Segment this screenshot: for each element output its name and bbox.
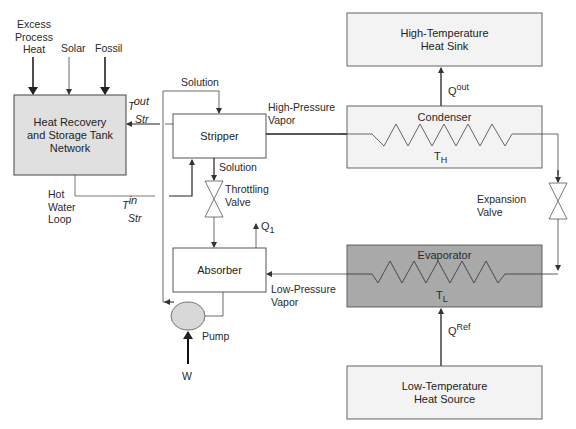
heat-recovery-label: Heat Recovery and Storage Tank Network bbox=[14, 95, 126, 175]
t-in-sub: Str bbox=[128, 212, 141, 225]
low-pressure-vapor-label: Low-Pressure Vapor bbox=[271, 283, 336, 308]
t-in-str-label: Tin bbox=[122, 199, 137, 212]
solution-mid-label: Solution bbox=[219, 161, 257, 174]
throttling-valve-label: Throttling Valve bbox=[225, 183, 269, 208]
high-pressure-vapor-label: High-Pressure Vapor bbox=[268, 101, 335, 126]
th-label: TH bbox=[434, 150, 447, 164]
t-out-str-label: Tout bbox=[128, 100, 149, 113]
condenser-label: Condenser bbox=[347, 111, 542, 124]
excess-process-heat-label: Excess Process Heat bbox=[14, 18, 54, 56]
solar-label: Solar bbox=[61, 42, 86, 55]
pump-label: Pump bbox=[202, 330, 229, 343]
heat-source-label: Low-Temperature Heat Source bbox=[347, 366, 542, 419]
w-label: W bbox=[182, 370, 192, 383]
expansion-valve-label: Expansion Valve bbox=[477, 193, 526, 218]
absorber-label: Absorber bbox=[173, 248, 266, 292]
solution-top-label: Solution bbox=[181, 76, 219, 89]
throttling-valve bbox=[205, 181, 223, 217]
q-ref-label: QRef bbox=[448, 325, 471, 339]
hot-water-loop-line bbox=[75, 175, 155, 196]
fossil-label: Fossil bbox=[95, 42, 122, 55]
pump bbox=[171, 302, 205, 330]
hot-water-loop-label: Hot Water Loop bbox=[48, 188, 76, 226]
q-out-label: Qout bbox=[448, 85, 469, 99]
q1-label: Q1 bbox=[261, 220, 275, 234]
tl-label: TL bbox=[436, 289, 448, 303]
expansion-valve bbox=[549, 183, 567, 219]
t-out-sub: Str bbox=[135, 113, 148, 126]
heat-sink-label: High-Temperature Heat Sink bbox=[347, 13, 542, 66]
evaporator-label: Evaporator bbox=[347, 249, 542, 262]
stripper-label: Stripper bbox=[173, 114, 266, 158]
